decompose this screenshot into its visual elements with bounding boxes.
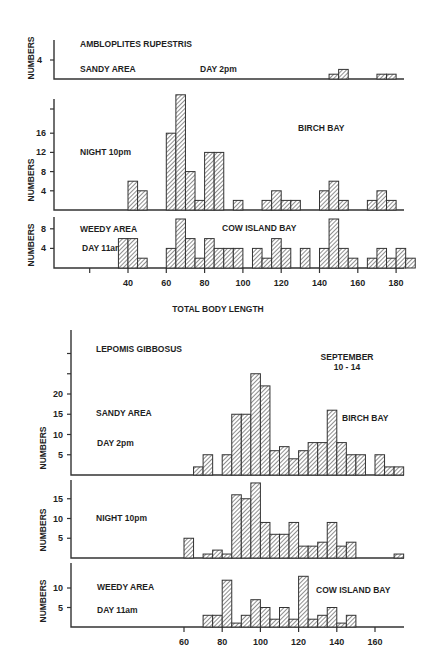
histogram-bar	[272, 191, 282, 210]
histogram-bar	[348, 258, 358, 268]
bot-title: LEPOMIS GIBBOSUS	[96, 344, 182, 354]
histogram-bar	[138, 191, 148, 210]
bot-p3-ylabel: NUMBERS	[38, 579, 48, 622]
histogram-bar	[299, 451, 309, 475]
top-panel2-bars	[128, 95, 396, 210]
histogram-bar	[128, 239, 138, 268]
histogram-bar	[281, 200, 291, 210]
histogram-bar	[329, 74, 339, 79]
histogram-bar	[406, 258, 416, 268]
svg-text:15: 15	[53, 494, 63, 504]
bot-p1-time: DAY 2pm	[97, 438, 134, 448]
svg-text:4: 4	[37, 55, 42, 65]
histogram-bar	[329, 181, 339, 210]
histogram-bar	[184, 538, 194, 558]
histogram-bar	[300, 248, 310, 268]
histogram-bar	[214, 248, 224, 268]
svg-text:8: 8	[41, 167, 46, 177]
top-p3-ylabel: NUMBERS	[26, 223, 36, 266]
histogram-bar	[185, 172, 195, 210]
histogram-bar	[385, 467, 395, 475]
histogram-bar	[213, 550, 223, 558]
bot-p3-location: COW ISLAND BAY	[316, 585, 391, 595]
histogram-bar	[346, 455, 356, 475]
histogram-bar	[241, 499, 251, 558]
bot-panel3-bars	[203, 576, 356, 627]
svg-text:20: 20	[53, 389, 63, 399]
histogram-bar	[320, 191, 330, 210]
top-x-axis-label: TOTAL BODY LENGTH	[172, 304, 263, 314]
svg-text:140: 140	[329, 637, 344, 647]
bot-panel2-bars	[184, 483, 404, 558]
histogram-bar	[260, 386, 270, 475]
svg-text:140: 140	[312, 278, 327, 288]
histogram-bar	[367, 258, 377, 268]
histogram-bar	[394, 467, 404, 475]
histogram-bar	[377, 191, 387, 210]
histogram-bar	[327, 410, 337, 475]
histogram-bar	[327, 522, 337, 558]
bot-panel1-bars	[194, 374, 404, 475]
svg-text:5: 5	[58, 450, 63, 460]
bot-x-axis-ticks: 6080100120140160	[179, 627, 383, 647]
histogram-bar	[394, 554, 404, 558]
svg-text:160: 160	[367, 637, 382, 647]
svg-text:16: 16	[36, 128, 46, 138]
svg-text:100: 100	[253, 637, 268, 647]
histogram-bar	[387, 258, 397, 268]
histogram-bar	[280, 447, 290, 475]
histogram-bar	[166, 133, 176, 210]
top-chart: 4 AMBLOPLITES RUPESTRIS SANDY AREA DAY 2…	[26, 36, 415, 314]
histogram-bar	[299, 546, 309, 558]
top-p3-time: DAY 11am	[82, 243, 123, 253]
histogram-bar	[318, 542, 328, 558]
histogram-bar	[270, 619, 280, 627]
svg-text:60: 60	[179, 637, 189, 647]
histogram-bar	[337, 623, 347, 627]
histogram-bar	[176, 219, 186, 268]
histogram-bar	[185, 239, 195, 268]
svg-text:60: 60	[161, 278, 171, 288]
histogram-bar	[213, 615, 223, 627]
histogram-bar	[377, 248, 387, 268]
histogram-figure: 4 AMBLOPLITES RUPESTRIS SANDY AREA DAY 2…	[0, 0, 437, 653]
bot-p1-location: BIRCH BAY	[342, 413, 389, 423]
top-p3-area: WEEDY AREA	[80, 224, 137, 234]
histogram-bar	[205, 152, 215, 210]
bot-p2-time: NIGHT 10pm	[96, 513, 147, 523]
histogram-bar	[337, 443, 347, 475]
histogram-bar	[291, 200, 301, 210]
bot-p3-time: DAY 11am	[97, 605, 138, 615]
histogram-bar	[375, 455, 385, 475]
histogram-bar	[232, 623, 242, 627]
histogram-bar	[280, 608, 290, 628]
histogram-bar	[222, 554, 232, 558]
histogram-bar	[387, 74, 397, 79]
histogram-bar	[205, 239, 215, 268]
histogram-bar	[367, 200, 377, 210]
histogram-bar	[280, 534, 290, 558]
svg-text:120: 120	[291, 637, 306, 647]
histogram-bar	[262, 258, 272, 268]
histogram-bar	[138, 258, 148, 268]
histogram-bar	[128, 181, 138, 210]
histogram-bar	[377, 74, 387, 79]
svg-text:180: 180	[389, 278, 404, 288]
histogram-bar	[327, 608, 337, 628]
svg-text:120: 120	[274, 278, 289, 288]
svg-text:80: 80	[217, 637, 227, 647]
histogram-bar	[270, 534, 280, 558]
histogram-bar	[222, 455, 232, 475]
svg-text:12: 12	[36, 147, 46, 157]
histogram-bar	[356, 455, 366, 475]
svg-text:10: 10	[53, 430, 63, 440]
svg-text:100: 100	[235, 278, 250, 288]
histogram-bar	[320, 248, 330, 268]
bot-p1-ylabel: NUMBERS	[38, 426, 48, 469]
svg-text:10: 10	[53, 583, 63, 593]
histogram-bar	[281, 248, 291, 268]
histogram-bar	[308, 443, 318, 475]
histogram-bar	[222, 580, 232, 627]
histogram-bar	[203, 455, 213, 475]
svg-text:4: 4	[41, 186, 46, 196]
